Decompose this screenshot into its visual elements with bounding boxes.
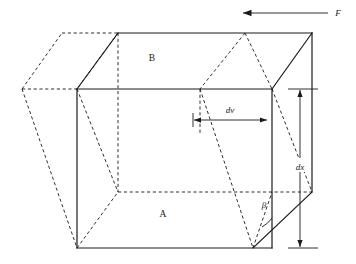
- figure-container: F: [0, 0, 356, 264]
- hidden-edges-group: [22, 33, 312, 248]
- parallelepiped-diagram: F: [0, 0, 356, 264]
- beta-angle-group: β: [261, 200, 272, 227]
- force-arrow-group: F: [243, 8, 341, 18]
- face-labels-group: B A: [149, 53, 167, 219]
- dv-dimension-group: dv: [193, 105, 267, 127]
- edge-top-right-diagonal: [272, 33, 312, 89]
- edge-far-left-upper-diagonal: [22, 33, 62, 89]
- face-label-b: B: [149, 53, 155, 63]
- beta-label: β: [261, 200, 267, 210]
- dv-label: dv: [226, 105, 235, 115]
- edge-right-front-to-back-bottom: [272, 89, 312, 192]
- edge-front-top-to-back-bottom: [77, 89, 118, 192]
- face-label-a: A: [160, 209, 167, 219]
- edge-far-left-lower-diagonal: [22, 89, 77, 248]
- edge-mid-apex-right-diagonal: [245, 33, 272, 89]
- dx-dimension-group: dx: [288, 89, 318, 248]
- beta-angle-arc: [262, 218, 272, 227]
- visible-edges-group: [77, 33, 312, 248]
- edge-mid-apex-left-diagonal: [200, 33, 245, 89]
- dx-label: dx: [296, 162, 305, 172]
- edge-far-left-to-back-bottom: [77, 192, 118, 248]
- edge-top-left-diagonal: [77, 33, 118, 89]
- force-label: F: [334, 8, 341, 18]
